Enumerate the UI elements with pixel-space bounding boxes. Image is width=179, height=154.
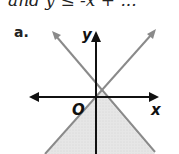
- y-axis-label: y: [82, 26, 92, 44]
- shaded-region: [45, 91, 155, 154]
- x-axis-left-arrow-icon: [29, 92, 39, 102]
- x-axis-label: x: [151, 101, 161, 119]
- y-axis-up-arrow-icon: [91, 31, 101, 42]
- arrowhead-icon: [52, 31, 61, 40]
- inequality-graph: [0, 0, 179, 154]
- origin-label: O: [72, 101, 85, 119]
